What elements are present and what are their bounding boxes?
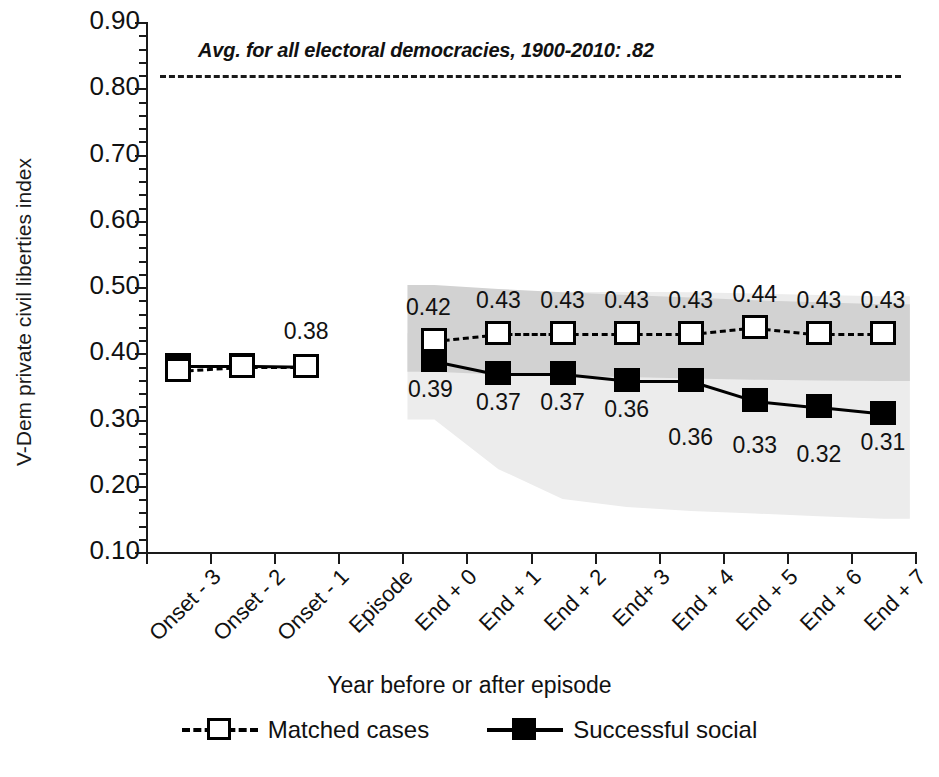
y-axis-minor-tick [139,367,146,369]
y-axis-minor-tick [139,35,146,37]
matched-cases-marker[interactable] [293,354,319,378]
matched-cases-marker[interactable] [614,321,640,345]
y-axis-minor-tick [139,459,146,461]
x-axis-tick [723,552,725,564]
y-axis-minor-tick [139,327,146,329]
y-axis-tick-label: 0.80 [30,73,140,99]
y-axis-minor-tick [139,446,146,448]
x-axis-tick [531,552,533,564]
filled-square-marker-icon [487,717,563,743]
successful-social-data-label: 0.36 [592,396,662,423]
matched-cases-data-label: 0.43 [848,287,918,314]
x-axis-tick [274,552,276,564]
successful-social-marker[interactable] [550,361,576,385]
y-axis-minor-tick [139,49,146,51]
y-axis-minor-tick [139,128,146,130]
y-axis-major-tick [135,420,146,422]
matched-cases-marker[interactable] [165,358,191,382]
y-axis-tick-label: 0.40 [30,338,140,364]
successful-social-data-label: 0.37 [528,389,598,416]
y-axis-minor-tick [139,300,146,302]
x-axis-tick [466,552,468,564]
x-axis-tick [659,552,661,564]
successful-social-marker[interactable] [806,394,832,418]
y-axis-major-tick [135,486,146,488]
x-axis-tick [915,552,917,564]
chart-legend: Matched cases Successful social [0,716,939,744]
chart-figure: V-Dem private civil liberties index 0.90… [0,0,939,777]
matched-cases-marker[interactable] [742,315,768,339]
successful-social-marker[interactable] [485,361,511,385]
successful-social-data-label: 0.37 [463,389,533,416]
y-axis-minor-tick [139,433,146,435]
matched-cases-marker[interactable] [870,321,896,345]
y-axis-minor-tick [139,75,146,77]
y-axis-major-tick [135,22,146,24]
x-axis-tick [787,552,789,564]
open-square-marker-icon [182,717,258,743]
reference-line-label: Avg. for all electoral democracies, 1900… [198,39,654,62]
successful-social-data-label: 0.38 [271,318,341,345]
y-axis-minor-tick [139,194,146,196]
y-axis-major-tick [135,88,146,90]
matched-cases-marker[interactable] [485,321,511,345]
y-axis-minor-tick [139,168,146,170]
y-axis-major-tick [135,287,146,289]
y-axis-tick-label: 0.10 [30,537,140,563]
legend-item-matched-cases[interactable]: Matched cases [182,716,429,744]
y-axis-major-tick [135,353,146,355]
successful-social-marker[interactable] [678,368,704,392]
y-axis-minor-tick [139,274,146,276]
matched-cases-data-label: 0.43 [463,287,533,314]
y-axis-major-tick [135,221,146,223]
matched-cases-data-label: 0.43 [784,287,854,314]
legend-label-matched-cases: Matched cases [268,716,429,744]
y-axis-tick-label: 0.20 [30,471,140,497]
reference-line [160,75,901,78]
plot-area: Avg. for all electoral democracies, 1900… [146,22,915,554]
y-axis-minor-tick [139,181,146,183]
y-axis-minor-tick [139,115,146,117]
y-axis-minor-tick [139,141,146,143]
matched-cases-data-label: 0.42 [393,294,463,321]
successful-social-data-label: 0.39 [395,376,465,403]
matched-cases-marker[interactable] [806,321,832,345]
y-axis-tick-label: 0.90 [30,7,140,33]
y-axis-minor-tick [139,380,146,382]
successful-social-marker[interactable] [742,388,768,412]
successful-social-data-label: 0.36 [656,424,726,451]
y-axis-tick-label: 0.70 [30,140,140,166]
x-axis-tick [595,552,597,564]
y-axis-minor-tick [139,208,146,210]
x-axis-tick [146,552,148,564]
y-axis-minor-tick [139,261,146,263]
matched-cases-marker[interactable] [678,321,704,345]
y-axis-major-tick [135,155,146,157]
matched-cases-data-label: 0.44 [720,281,790,308]
y-axis-tick-label: 0.60 [30,206,140,232]
successful-social-marker[interactable] [870,401,896,425]
y-axis-tick-label: 0.50 [30,272,140,298]
matched-cases-marker[interactable] [229,354,255,378]
y-axis-minor-tick [139,314,146,316]
x-axis-tick [851,552,853,564]
successful-social-data-label: 0.32 [784,441,854,468]
y-axis-minor-tick [139,499,146,501]
y-axis-minor-tick [139,539,146,541]
y-axis-minor-tick [139,526,146,528]
matched-cases-marker[interactable] [550,321,576,345]
y-axis-major-tick [135,552,146,554]
y-axis-line [146,22,148,554]
y-axis-minor-tick [139,512,146,514]
matched-cases-data-label: 0.43 [592,287,662,314]
matched-cases-marker[interactable] [421,328,447,352]
successful-social-marker[interactable] [614,368,640,392]
x-axis-title: Year before or after episode [0,672,939,699]
x-axis-tick [338,552,340,564]
y-axis-minor-tick [139,62,146,64]
x-axis-tick [402,552,404,564]
y-axis-minor-tick [139,234,146,236]
y-axis-minor-tick [139,247,146,249]
y-axis-minor-tick [139,473,146,475]
legend-item-successful-social[interactable]: Successful social [487,716,757,744]
